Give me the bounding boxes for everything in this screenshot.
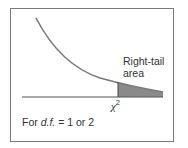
right-tail-area-label: Right-tail area [123, 55, 173, 79]
degrees-of-freedom-caption: For d.f. = 1 or 2 [22, 116, 94, 128]
caption-df: d.f. [41, 116, 56, 128]
chi-superscript: 2 [116, 98, 120, 107]
chi-square-critical-label: χ2 [111, 98, 120, 112]
caption-prefix: For [22, 116, 41, 128]
right-tail-label-line2: area [123, 67, 173, 79]
right-tail-label-line1: Right-tail [123, 55, 173, 67]
caption-suffix: = 1 or 2 [55, 116, 94, 128]
